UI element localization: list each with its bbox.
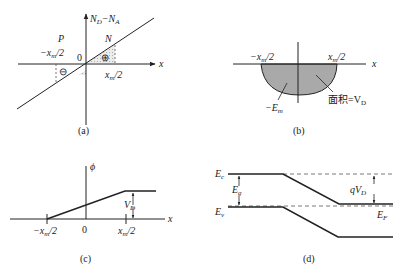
panel-d-band-diagram: Ec Ev Eg EF qVD (d) <box>214 168 394 265</box>
eg-label: Eg <box>231 184 242 197</box>
ev-label: Ev <box>214 206 225 219</box>
origin-label: 0 <box>77 52 82 63</box>
positive-charge-icon: ⊕ <box>101 52 109 63</box>
built-in-voltage-label: VD <box>124 199 135 212</box>
region-n-label: N <box>104 33 113 44</box>
caption-c: (c) <box>80 253 91 265</box>
caption-d: (d) <box>303 253 315 265</box>
right-bound-label: xm/2 <box>327 51 345 64</box>
ef-label: EF <box>376 209 388 222</box>
conduction-band <box>228 174 393 204</box>
left-bound-label: −xm/2 <box>40 47 64 60</box>
x-axis-label: x <box>371 58 377 69</box>
caption-a: (a) <box>78 125 89 137</box>
valence-band <box>228 207 393 237</box>
min-field-label: −Em <box>265 102 283 115</box>
left-bound-label: −xm/2 <box>250 51 274 64</box>
ec-label: Ec <box>214 168 225 181</box>
x-axis-label: x <box>167 213 173 224</box>
negative-charge-icon: ⊖ <box>59 66 67 77</box>
panel-c-potential: ϕ x 0 −xm/2 xm/2 VD (c) <box>10 161 173 265</box>
area-label: 面积=VD <box>328 94 366 107</box>
left-bound-label: −xm/2 <box>33 225 57 238</box>
y-axis-label: ϕ <box>90 161 95 172</box>
field-area <box>261 64 337 95</box>
right-bound-label: xm/2 <box>104 69 122 82</box>
region-p-label: P <box>57 33 64 44</box>
pn-junction-figure: ND−NA x P N 0 −xm/2 xm/2 ⊖ ⊕ (a) x −xm/2… <box>0 0 400 272</box>
right-bound-label: xm/2 <box>117 225 135 238</box>
panel-b-electric-field: x −xm/2 xm/2 −Em 面积=VD (b) <box>233 42 377 137</box>
origin-label: 0 <box>82 224 87 235</box>
x-axis-label: x <box>158 58 164 69</box>
y-axis-label: ND−NA <box>89 13 120 26</box>
panel-a-doping-profile: ND−NA x P N 0 −xm/2 xm/2 ⊖ ⊕ (a) <box>17 13 164 137</box>
potential-curve <box>47 191 156 219</box>
qvd-label: qVD <box>350 184 366 197</box>
caption-b: (b) <box>293 125 305 137</box>
